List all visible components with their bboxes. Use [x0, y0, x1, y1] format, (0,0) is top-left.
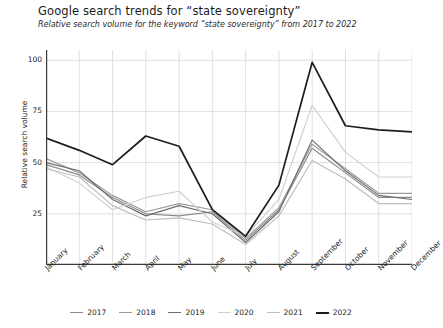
chart-legend: 201720182019202020212022	[0, 308, 422, 317]
legend-label: 2017	[87, 308, 106, 317]
legend-item-2022[interactable]: 2022	[316, 308, 352, 317]
legend-line-icon	[70, 312, 83, 313]
plot-area	[46, 50, 412, 265]
y-tick-label: 100	[18, 55, 42, 64]
legend-line-icon	[119, 312, 132, 313]
legend-line-icon	[267, 312, 280, 313]
legend-label: 2019	[185, 308, 204, 317]
y-tick-label: 25	[18, 209, 42, 218]
legend-item-2020[interactable]: 2020	[218, 308, 254, 317]
legend-label: 2020	[235, 308, 254, 317]
legend-label: 2021	[284, 308, 303, 317]
y-tick-label: 50	[18, 158, 42, 167]
legend-item-2021[interactable]: 2021	[267, 308, 303, 317]
y-tick-label: 75	[18, 106, 42, 115]
legend-line-icon	[316, 312, 329, 314]
chart-subtitle: Relative search volume for the keyword “…	[38, 19, 418, 30]
legend-item-2017[interactable]: 2017	[70, 308, 106, 317]
legend-label: 2022	[333, 308, 352, 317]
legend-item-2018[interactable]: 2018	[119, 308, 155, 317]
legend-line-icon	[168, 312, 181, 313]
y-axis-ticks: 100755025	[14, 50, 42, 265]
x-tick-label: December	[409, 238, 443, 272]
legend-label: 2018	[136, 308, 155, 317]
page-title: Google search trends for “state sovereig…	[38, 4, 418, 18]
title-block: Google search trends for “state sovereig…	[38, 4, 418, 30]
line-chart-svg	[46, 50, 412, 265]
legend-item-2019[interactable]: 2019	[168, 308, 204, 317]
legend-line-icon	[218, 312, 231, 313]
x-axis-ticks: JanuaryFebruaryMarchAprilMayJuneJulyAugu…	[46, 266, 412, 312]
